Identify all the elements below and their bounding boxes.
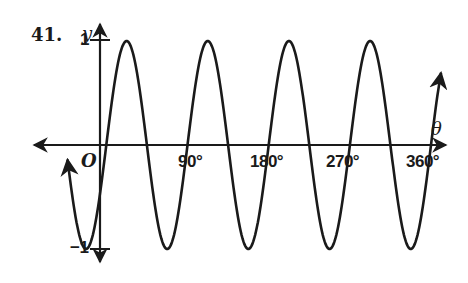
x-tick-label-270: 270°	[326, 152, 359, 172]
y-max-label: 1	[80, 30, 89, 50]
x-axis-label: θ	[431, 118, 442, 139]
x-tick-label-180: 180°	[250, 152, 283, 172]
x-tick-label-90: 90°	[178, 152, 202, 172]
x-tick-label-360: 360°	[406, 152, 439, 172]
origin-label: O	[81, 150, 97, 171]
y-min-label: −1	[70, 238, 88, 258]
